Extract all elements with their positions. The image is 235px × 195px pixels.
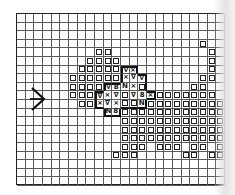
grid-cell (17, 100, 26, 109)
grid-cell: N (121, 83, 130, 92)
grid-cell (43, 14, 52, 23)
grid-cell (86, 177, 95, 186)
grid-cell (69, 160, 78, 169)
grid-cell (26, 177, 35, 186)
grid-cell (104, 31, 113, 40)
grid-cell (43, 152, 52, 161)
grid-cell (121, 23, 130, 32)
grid-cell (199, 31, 208, 40)
grid-cell (156, 100, 165, 109)
grid-cell (182, 48, 191, 57)
grid-cell (173, 91, 182, 100)
grid-cell (34, 126, 43, 135)
grid-cell (164, 83, 173, 92)
grid-cell (69, 126, 78, 135)
grid-cell (182, 169, 191, 178)
grid-cell (52, 160, 61, 169)
grid-cell (95, 83, 104, 92)
grid-cell (43, 40, 52, 49)
grid-cell (43, 31, 52, 40)
grid-cell (95, 48, 104, 57)
grid-cell (156, 143, 165, 152)
grid-cell (138, 57, 147, 66)
grid-cell (121, 169, 130, 178)
grid-cell (173, 152, 182, 161)
grid-cell (164, 91, 173, 100)
grid-cell (52, 40, 61, 49)
grid-cell (26, 134, 35, 143)
grid-cell (52, 14, 61, 23)
grid-cell (43, 177, 52, 186)
grid-cell (95, 117, 104, 126)
grid-cell (60, 31, 69, 40)
grid-cell (60, 143, 69, 152)
grid-cell (104, 160, 113, 169)
grid-cell (190, 134, 199, 143)
grid-cell (173, 100, 182, 109)
grid-cell (69, 66, 78, 75)
grid-cell (130, 31, 139, 40)
grid-cell (130, 117, 139, 126)
grid-cell (95, 40, 104, 49)
grid-cell (17, 177, 26, 186)
grid-cell (26, 14, 35, 23)
grid-cell (69, 134, 78, 143)
grid-cell (26, 152, 35, 161)
grid-cell (164, 74, 173, 83)
grid-cell (17, 109, 26, 118)
grid-cell (147, 66, 156, 75)
grid-cell (173, 109, 182, 118)
grid-cell (34, 177, 43, 186)
grid-cell (69, 31, 78, 40)
grid-cell (34, 117, 43, 126)
grid-cell (121, 14, 130, 23)
grid-cell (86, 152, 95, 161)
grid-cell (34, 74, 43, 83)
grid-cell (26, 143, 35, 152)
grid-cell (95, 169, 104, 178)
grid-cell (138, 48, 147, 57)
grid-cell (190, 83, 199, 92)
grid-cell (95, 152, 104, 161)
grid-cell (190, 100, 199, 109)
grid-cell (164, 40, 173, 49)
grid-cell (112, 177, 121, 186)
grid-cell (78, 160, 87, 169)
grid-cell (173, 83, 182, 92)
grid-cell (26, 48, 35, 57)
grid-cell (182, 66, 191, 75)
grid-cell (182, 57, 191, 66)
grid-cell (86, 100, 95, 109)
grid-cell (43, 169, 52, 178)
grid-cell (60, 117, 69, 126)
grid-cell (60, 57, 69, 66)
grid-cell (173, 23, 182, 32)
grid-cell (86, 117, 95, 126)
grid-cell (78, 100, 87, 109)
grid-cell (52, 57, 61, 66)
grid-cell (78, 14, 87, 23)
grid-cell (17, 40, 26, 49)
grid-cell (78, 31, 87, 40)
grid-cell (86, 109, 95, 118)
grid-cell (156, 160, 165, 169)
grid-cell (78, 48, 87, 57)
grid-cell (138, 152, 147, 161)
grid-cell (17, 117, 26, 126)
grid-cell (52, 117, 61, 126)
grid-cell (138, 31, 147, 40)
grid-cell (95, 160, 104, 169)
grid-cell (112, 126, 121, 135)
grid-cell (95, 66, 104, 75)
grid-cell (147, 57, 156, 66)
grid-cell (69, 57, 78, 66)
grid-cell (199, 57, 208, 66)
grid-cell (138, 109, 147, 118)
grid-cell (138, 23, 147, 32)
grid-cell (26, 40, 35, 49)
grid-cell: ∇ (130, 91, 139, 100)
grid-cell (86, 57, 95, 66)
grid-cell (190, 66, 199, 75)
grid-cell (173, 66, 182, 75)
grid-cell (121, 91, 130, 100)
